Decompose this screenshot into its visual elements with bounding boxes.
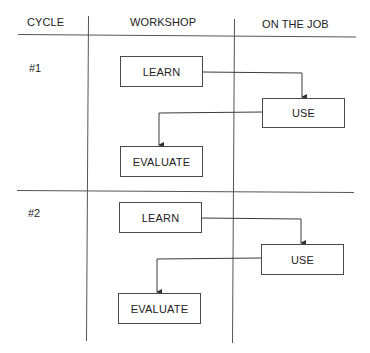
cycle-label-1: #1 (29, 62, 41, 74)
cycle-2-evaluate-box: EVALUATE (118, 293, 201, 324)
column-header-cycle: CYCLE (27, 16, 64, 28)
cycle-2-learn-box: LEARN (119, 202, 202, 233)
learn-use-evaluate-diagram: CYCLE WORKSHOP ON THE JOB #1 #2 LEARN US… (0, 0, 370, 353)
cycle-1-learn-box: LEARN (120, 56, 203, 87)
cycle-1-use-box: USE (262, 98, 345, 128)
column-header-workshop: WORKSHOP (130, 16, 196, 28)
column-header-on-the-job: ON THE JOB (262, 18, 329, 30)
connector-learn-to-use-2 (201, 218, 301, 243)
cycle-divider (17, 191, 354, 193)
header-divider (18, 35, 356, 38)
lane-divider-left (87, 16, 89, 341)
connector-use-to-evaluate-2 (157, 258, 261, 292)
cycle-label-2: #2 (28, 207, 40, 219)
connector-learn-to-use-1 (203, 72, 302, 97)
cycle-1-evaluate-box: EVALUATE (120, 146, 203, 177)
connector-use-to-evaluate-1 (159, 112, 262, 145)
cycle-2-use-box: USE (261, 244, 344, 275)
lane-divider-right (233, 19, 235, 343)
